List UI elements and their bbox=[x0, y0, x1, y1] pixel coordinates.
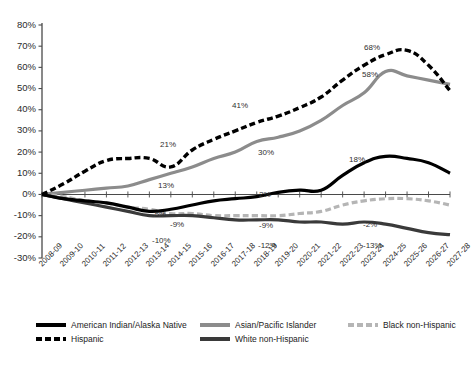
legend-swatch-icon bbox=[36, 337, 66, 341]
y-axis-tick-label: 30% bbox=[2, 125, 36, 135]
data-point-label: 68% bbox=[364, 43, 380, 52]
data-point-label: 41% bbox=[232, 101, 248, 110]
y-axis-tick-label: 20% bbox=[2, 147, 36, 157]
legend-item-label: Asian/Pacific Islander bbox=[235, 320, 316, 330]
legend-item-label: White non-Hispanic bbox=[235, 334, 309, 344]
data-point-label: 58% bbox=[362, 70, 378, 79]
y-axis-tick-label: 50% bbox=[2, 83, 36, 93]
legend-item[interactable]: American Indian/Alaska Native bbox=[36, 320, 187, 330]
y-axis-tick-label: 60% bbox=[2, 62, 36, 72]
legend-item-label: Hispanic bbox=[71, 334, 104, 344]
data-point-label: 2% bbox=[259, 190, 271, 199]
series-line-american-indian-alaska-native bbox=[42, 156, 450, 211]
legend-item[interactable]: Asian/Pacific Islander bbox=[200, 320, 316, 330]
y-axis-tick-label: -20% bbox=[2, 231, 36, 241]
y-axis-tick-label: 40% bbox=[2, 104, 36, 114]
data-point-label: 18% bbox=[349, 155, 365, 164]
legend-swatch-icon bbox=[200, 323, 230, 327]
y-axis-tick-label: 80% bbox=[2, 20, 36, 30]
data-point-label: -12% bbox=[258, 241, 277, 250]
data-point-label: -5% bbox=[152, 210, 166, 219]
legend-swatch-icon bbox=[348, 323, 378, 327]
y-axis-tick-label: 10% bbox=[2, 168, 36, 178]
data-point-label: 13% bbox=[158, 181, 174, 190]
y-axis-tick-label: 0% bbox=[2, 189, 36, 199]
data-point-label: -2% bbox=[363, 220, 377, 229]
data-point-label: -9% bbox=[259, 221, 273, 230]
data-point-label: -10% bbox=[152, 236, 171, 245]
legend-item[interactable]: Hispanic bbox=[36, 334, 104, 344]
data-point-label: -9% bbox=[170, 220, 184, 229]
legend-item[interactable]: Black non-Hispanic bbox=[348, 320, 456, 330]
legend-swatch-icon bbox=[36, 323, 66, 327]
series-line-asian-pacific-islander bbox=[42, 70, 450, 194]
legend-item-label: American Indian/Alaska Native bbox=[71, 320, 187, 330]
legend-item[interactable]: White non-Hispanic bbox=[200, 334, 309, 344]
data-point-label: 21% bbox=[160, 140, 176, 149]
y-axis-tick-label: -30% bbox=[2, 253, 36, 263]
y-axis-tick-label: -10% bbox=[2, 210, 36, 220]
y-axis-tick-label: 70% bbox=[2, 41, 36, 51]
data-point-label: 30% bbox=[258, 148, 274, 157]
legend-swatch-icon bbox=[200, 337, 230, 341]
legend-item-label: Black non-Hispanic bbox=[383, 320, 456, 330]
chart-legend: American Indian/Alaska NativeAsian/Pacif… bbox=[36, 320, 456, 360]
data-point-label: -13% bbox=[363, 241, 382, 250]
